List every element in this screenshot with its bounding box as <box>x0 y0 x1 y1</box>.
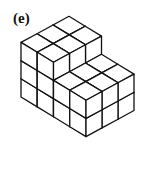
figure-canvas: (e) <box>0 0 145 190</box>
isometric-cube-stack <box>0 0 145 190</box>
